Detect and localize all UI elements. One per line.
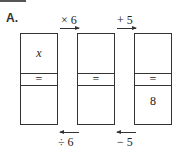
equals-band: = (78, 73, 114, 86)
flow-box-2: = (77, 33, 115, 125)
left-arrow-icon (60, 132, 79, 133)
problem-label: A. (6, 11, 18, 25)
equals-band: = (21, 73, 57, 86)
right-arrow-icon (60, 28, 79, 29)
flow-box-3: = 8 (134, 33, 172, 125)
right-arrow-icon (117, 28, 136, 29)
inverse-op-1: ÷ 6 (58, 135, 74, 150)
cropped-text-fragment (0, 0, 26, 2)
forward-op-2: + 5 (117, 13, 133, 28)
box-top-value: x (21, 46, 57, 61)
flow-box-1: x = (20, 33, 58, 125)
box-bottom-value: 8 (135, 94, 171, 109)
left-arrow-icon (117, 132, 136, 133)
inverse-op-2: − 5 (117, 135, 133, 150)
equals-band: = (135, 73, 171, 86)
